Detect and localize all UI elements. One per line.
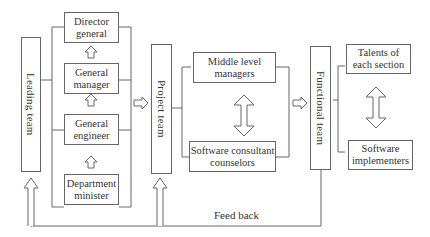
org-flow-diagram: Leading team Director general General ma… xyxy=(0,0,430,237)
talents-of-each-section-label: Talents of each section xyxy=(347,47,410,71)
general-manager-box: General manager xyxy=(64,63,119,94)
software-consultant-counselors-box: Software consultant counselors xyxy=(189,141,276,172)
functional-team-label: Functional team xyxy=(315,71,327,145)
middle-level-managers-label: Middle level managers xyxy=(194,56,275,80)
director-general-label: Director general xyxy=(65,16,118,40)
general-manager-label: General manager xyxy=(65,67,118,91)
leading-team-label: Leading team xyxy=(25,73,37,136)
software-implementers-box: Software implementers xyxy=(348,140,413,170)
functional-team-box: Functional team xyxy=(310,46,331,170)
project-team-box: Project team xyxy=(151,44,172,174)
project-team-label: Project team xyxy=(156,80,168,138)
leading-team-box: Leading team xyxy=(21,37,41,172)
department-minister-label: Department minister xyxy=(65,178,118,202)
talents-of-each-section-box: Talents of each section xyxy=(346,44,411,74)
general-engineer-box: General engineer xyxy=(64,114,119,145)
director-general-box: Director general xyxy=(64,12,119,43)
software-implementers-label: Software implementers xyxy=(349,143,412,167)
department-minister-box: Department minister xyxy=(64,174,119,205)
general-engineer-label: General engineer xyxy=(65,118,118,142)
feedback-label: Feed back xyxy=(214,209,259,221)
middle-level-managers-box: Middle level managers xyxy=(193,52,276,83)
software-consultant-counselors-label: Software consultant counselors xyxy=(190,145,275,169)
